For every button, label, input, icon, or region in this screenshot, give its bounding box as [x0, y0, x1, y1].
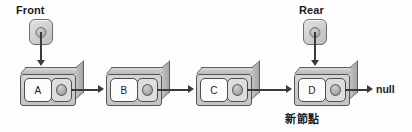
- node-d-pointer-dot-icon: [330, 84, 341, 96]
- node-b-data-cell: B: [110, 78, 138, 102]
- node-c-pointer-cell: [227, 78, 248, 102]
- node-b-right-face: [162, 60, 170, 99]
- node-a-top-face: [20, 67, 82, 74]
- node-d-front-face: D: [294, 74, 350, 106]
- node-c: C: [196, 67, 252, 99]
- link-b-to-c: [157, 89, 190, 91]
- rear-pointer-label: Rear: [299, 4, 324, 16]
- null-terminator-label: null: [376, 83, 395, 95]
- link-a-to-b-arrowhead-icon: [98, 85, 104, 93]
- new-node-caption: 新節點: [285, 110, 320, 126]
- node-c-pointer-dot-icon: [232, 84, 243, 96]
- link-c-to-d: [247, 89, 288, 91]
- node-b: B: [106, 67, 162, 99]
- node-a-data-cell: A: [24, 78, 52, 102]
- node-d-pointer-cell: [325, 78, 346, 102]
- node-a-pointer-cell: [51, 78, 72, 102]
- node-b-pointer-dot-icon: [142, 84, 153, 96]
- rear-pointer-stem: [314, 32, 316, 62]
- node-a-front-face: A: [20, 74, 76, 106]
- link-d-to-null-arrowhead-icon: [367, 85, 373, 93]
- node-d-data-cell: D: [298, 78, 326, 102]
- node-d: D: [294, 67, 350, 99]
- node-a-right-face: [76, 60, 84, 99]
- node-c-front-face: C: [196, 74, 252, 106]
- node-c-data-cell: C: [200, 78, 228, 102]
- front-pointer-label: Front: [16, 4, 45, 16]
- node-d-right-face: [350, 60, 358, 99]
- node-b-top-face: [106, 67, 168, 74]
- front-pointer-stem: [40, 32, 42, 62]
- node-c-top-face: [196, 67, 258, 74]
- node-d-top-face: [294, 67, 356, 74]
- link-b-to-c-arrowhead-icon: [188, 85, 194, 93]
- node-a-pointer-dot-icon: [56, 84, 67, 96]
- link-a-to-b: [71, 89, 100, 91]
- queue-diagram-canvas: Front Rear A B: [0, 0, 412, 132]
- link-c-to-d-arrowhead-icon: [286, 85, 292, 93]
- front-pointer-arrowhead-icon: [37, 60, 45, 66]
- node-b-front-face: B: [106, 74, 162, 106]
- link-d-to-null: [345, 89, 369, 91]
- node-c-right-face: [252, 60, 260, 99]
- rear-pointer-arrowhead-icon: [311, 60, 319, 66]
- node-a: A: [20, 67, 76, 99]
- node-b-pointer-cell: [137, 78, 158, 102]
